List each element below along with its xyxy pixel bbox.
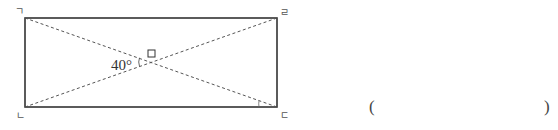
- vertex-label-bottom-right: ㄷ: [280, 111, 289, 121]
- unknown-angle-box: [148, 50, 155, 57]
- angle-label-40: 40°: [111, 58, 132, 73]
- vertex-label-top-right: ㄹ: [280, 8, 289, 18]
- answer-blank[interactable]: [380, 98, 540, 116]
- answer-close-paren: ): [544, 98, 550, 115]
- vertex-label-bottom-left: ㄴ: [16, 111, 25, 121]
- answer-open-paren: (: [369, 98, 375, 115]
- angle-arc-40: [139, 58, 140, 66]
- vertex-label-top-left: ㄱ: [15, 7, 24, 17]
